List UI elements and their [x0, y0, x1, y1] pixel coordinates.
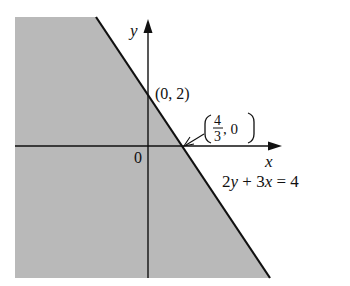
- origin-label: 0: [134, 149, 142, 166]
- svg-text:4: 4: [214, 113, 221, 128]
- x-axis-arrow-icon: [268, 142, 282, 151]
- inequality-graph: y x 0 (0, 2) 4 3 , 0 2y + 3x = 4: [0, 0, 350, 286]
- x-axis-label: x: [264, 152, 273, 171]
- equation-label: 2y + 3x = 4: [222, 172, 299, 191]
- point-label-x-intercept: 4 3 , 0: [205, 113, 254, 144]
- point-label-y-intercept: (0, 2): [155, 85, 190, 103]
- y-axis-label: y: [128, 21, 138, 40]
- svg-text:3: 3: [214, 129, 221, 144]
- shaded-region: [15, 17, 270, 278]
- y-axis-arrow-icon: [144, 19, 153, 33]
- svg-text:, 0: , 0: [223, 121, 238, 137]
